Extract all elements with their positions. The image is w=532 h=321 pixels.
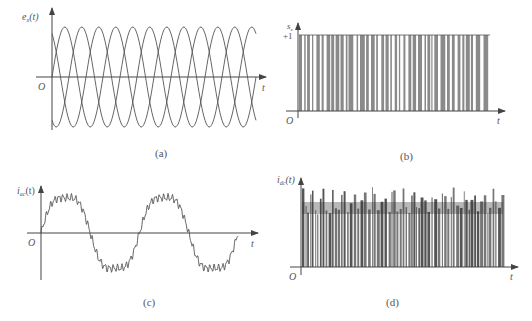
caption-b: (b): [400, 150, 413, 163]
caption-c: (c): [143, 296, 156, 309]
panel-a: ex(t) O t (a): [22, 8, 266, 160]
y-axis-label: ex(t): [22, 11, 39, 23]
caption-d: (d): [386, 296, 399, 309]
switching-pulses: [299, 35, 490, 111]
x-axis-label: t: [262, 82, 265, 93]
x-axis-label: t: [497, 115, 500, 126]
y-axis-label: idc(t): [277, 174, 296, 186]
x-axis-label: t: [251, 238, 254, 249]
ytick-plus-one: +1: [283, 31, 293, 41]
dc-current-pulses: [302, 187, 504, 267]
origin-label: O: [289, 271, 296, 282]
figure: ex(t) O t (a) sx +1 O t (b) iac(t) O t (…: [0, 0, 532, 321]
panel-d: idc(t) O t (d): [277, 174, 518, 309]
y-axis-label: iac(t): [17, 185, 35, 197]
panel-b: sx +1 O t (b): [283, 21, 505, 163]
origin-label: O: [286, 115, 293, 126]
origin-label: O: [38, 81, 45, 92]
panel-c: iac(t) O t (c): [17, 185, 258, 309]
origin-label: O: [28, 237, 35, 248]
caption-a: (a): [155, 147, 168, 160]
x-axis-label: t: [510, 271, 513, 282]
